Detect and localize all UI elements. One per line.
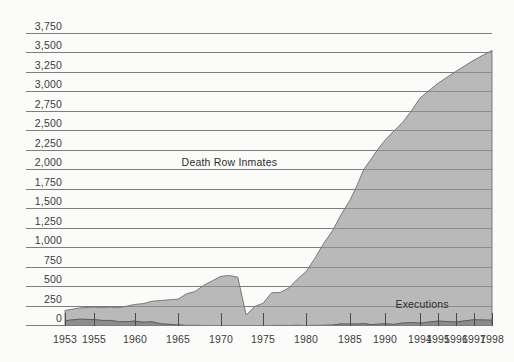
- y-tick-label: 500: [44, 273, 62, 285]
- x-tick-label: 1955: [82, 333, 106, 345]
- y-tick-label: 1,500: [35, 195, 62, 207]
- y-tick-label: 1,000: [35, 234, 62, 246]
- y-tick-label: 250: [44, 293, 62, 305]
- death-row-area-chart: 3,7503,5003,2503,0002,7502,5002,2502,000…: [0, 0, 514, 362]
- y-tick-label: 1,750: [35, 176, 62, 188]
- x-tick-label: 1990: [373, 333, 397, 345]
- y-tick-label: 750: [44, 254, 62, 266]
- x-axis-tick-labels: 1953195519601965197019751980198519901994…: [53, 333, 504, 345]
- y-tick-label: 1,250: [35, 215, 62, 227]
- y-tick-label: 3,750: [35, 20, 62, 32]
- y-tick-label: 3,250: [35, 59, 62, 71]
- x-tick-label: 1998: [480, 333, 504, 345]
- x-tick-label: 1975: [251, 333, 275, 345]
- x-tick-label: 1980: [294, 333, 318, 345]
- y-tick-label: 3,500: [35, 39, 62, 51]
- x-tick-label: 1953: [53, 333, 77, 345]
- chart-canvas: 3,7503,5003,2503,0002,7502,5002,2502,000…: [0, 0, 514, 362]
- y-tick-label: 3,000: [35, 78, 62, 90]
- series-annotation-executions: Executions: [395, 298, 448, 310]
- x-tick-label: 1960: [123, 333, 147, 345]
- y-tick-label: 0: [56, 312, 62, 324]
- y-tick-label: 2,000: [35, 156, 62, 168]
- series-annotation-death-row-inmates: Death Row Inmates: [182, 156, 278, 168]
- x-tick-label: 1970: [209, 333, 233, 345]
- x-tick-label: 1985: [338, 333, 362, 345]
- x-tick-label: 1965: [166, 333, 190, 345]
- y-axis-tick-labels: 3,7503,5003,2503,0002,7502,5002,2502,000…: [35, 20, 62, 324]
- y-tick-label: 2,250: [35, 137, 62, 149]
- y-tick-label: 2,500: [35, 117, 62, 129]
- y-tick-label: 2,750: [35, 98, 62, 110]
